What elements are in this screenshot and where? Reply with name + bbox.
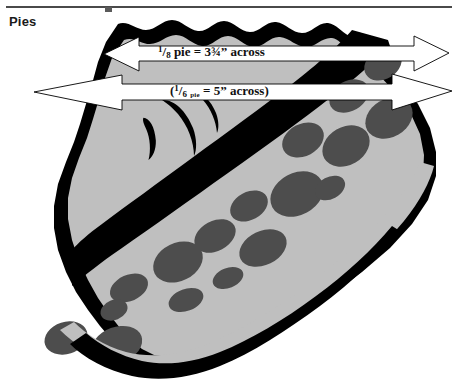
dimension-value: 3¾” across (204, 44, 264, 59)
fraction-numerator: 1 (174, 83, 179, 93)
figure-page: Pies (0, 0, 458, 387)
fraction-numerator: 1 (158, 44, 163, 54)
fraction-denominator: 6 (182, 89, 187, 99)
dimension-word-pie: pie (190, 91, 200, 99)
fraction-denominator: 8 (166, 50, 171, 60)
dimension-word-pie: pie (174, 44, 191, 59)
fraction-one-eighth: 1/8 (158, 45, 171, 58)
dimension-equals: = (191, 44, 205, 59)
pie-wedge-group (40, 20, 436, 379)
dimension-label-eighth-pie: 1/8 pie = 3¾” across (158, 45, 265, 58)
dimension-label-sixth-pie: (1/6 pie = 5” across) (170, 84, 269, 97)
dimension-equals: = (200, 83, 214, 98)
fraction-one-sixth: 1/6 (174, 84, 187, 97)
close-paren: ) (264, 83, 268, 98)
dimension-value: 5” across (214, 83, 265, 98)
